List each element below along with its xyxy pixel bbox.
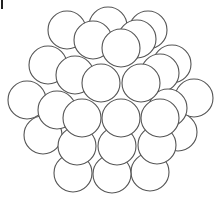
sphere-circle [102,99,140,137]
sphere-circle [102,29,140,67]
sphere-circle [141,99,179,137]
sphere-packing-diagram [0,0,221,201]
sphere-cluster [8,7,213,193]
sphere-circle [122,64,160,102]
sphere-circle [63,99,101,137]
sphere-circle [82,64,120,102]
